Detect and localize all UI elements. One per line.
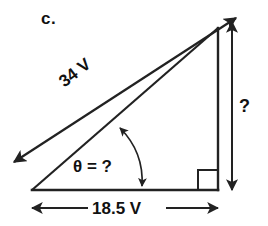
right-angle-marker-icon <box>198 170 218 190</box>
vector-diagram-figure: c. 34 V θ = ? 18.5 V ? <box>0 0 268 226</box>
part-label: c. <box>41 10 56 27</box>
resultant-vector-arrow <box>14 18 236 162</box>
diagram-canvas <box>0 0 268 226</box>
angle-label: θ = ? <box>73 158 112 175</box>
triangle-hypotenuse-line <box>32 28 218 190</box>
base-length-label: 18.5 V <box>92 200 141 217</box>
height-length-label: ? <box>239 97 250 115</box>
angle-arc-icon <box>120 128 142 186</box>
